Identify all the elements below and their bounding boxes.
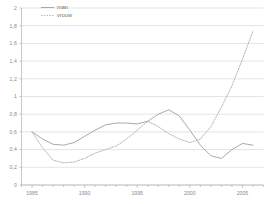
legend-label-man: man bbox=[57, 4, 68, 10]
series-line-vrouw bbox=[32, 31, 253, 163]
y-axis-label: 1,4 bbox=[1, 58, 17, 64]
x-axis-label: 1995 bbox=[124, 190, 150, 196]
x-axis-label: 1985 bbox=[19, 190, 45, 196]
y-axis-label: 1,8 bbox=[1, 23, 17, 29]
x-axis-label: 1990 bbox=[72, 190, 98, 196]
y-axis-label: 0 bbox=[1, 182, 17, 188]
series-line-man bbox=[32, 110, 253, 159]
x-axis-label: 2000 bbox=[177, 190, 203, 196]
y-axis-label: 2 bbox=[1, 5, 17, 11]
x-tick-marks bbox=[22, 185, 264, 188]
chart-canvas bbox=[0, 0, 268, 204]
y-axis-label: 0,4 bbox=[1, 146, 17, 152]
y-axis-label: 0,6 bbox=[1, 129, 17, 135]
y-axis-label: 1,6 bbox=[1, 40, 17, 46]
y-axis-label: 0,2 bbox=[1, 164, 17, 170]
y-axis-label: 1,2 bbox=[1, 76, 17, 82]
gridlines bbox=[22, 8, 264, 185]
x-axis-label: 2005 bbox=[229, 190, 255, 196]
legend-label-vrouw: vrouw bbox=[57, 12, 72, 18]
y-axis-label: 0,8 bbox=[1, 111, 17, 117]
y-axis-label: 1 bbox=[1, 93, 17, 99]
line-chart: 00,20,40,60,811,21,41,61,821985199019952… bbox=[0, 0, 268, 204]
